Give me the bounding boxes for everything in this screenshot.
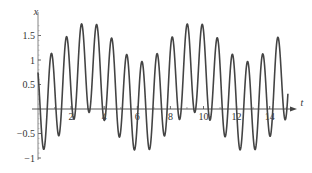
y-tick-label: −1 xyxy=(24,153,35,164)
y-tick-label: −0.5 xyxy=(17,128,35,139)
x-axis-label: t xyxy=(301,97,304,108)
y-tick-label: 1 xyxy=(30,55,35,66)
x-tick-label: 8 xyxy=(168,111,173,122)
line-chart: −1−0.50.511.5 x 2468101214 t xyxy=(0,0,312,173)
x-tick-label: 10 xyxy=(199,111,209,122)
data-series-line xyxy=(38,24,288,150)
y-axis-label: x xyxy=(33,6,39,17)
y-axis: −1−0.50.511.5 x xyxy=(17,6,41,164)
y-tick-label: 0.5 xyxy=(23,79,36,90)
x-axis-arrow-icon xyxy=(290,107,297,112)
y-tick-label: 1.5 xyxy=(23,30,36,41)
